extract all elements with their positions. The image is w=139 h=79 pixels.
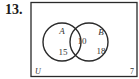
venn-diagram: A B 15 10 18 U 7 bbox=[0, 0, 139, 79]
b-only-count: 18 bbox=[97, 46, 107, 56]
a-only-count: 15 bbox=[59, 47, 69, 57]
outside-count: 7 bbox=[130, 67, 134, 76]
set-b-label: B bbox=[98, 27, 104, 37]
universe-label: U bbox=[35, 67, 42, 76]
intersection-count: 10 bbox=[78, 36, 88, 46]
set-a-label: A bbox=[58, 26, 65, 36]
